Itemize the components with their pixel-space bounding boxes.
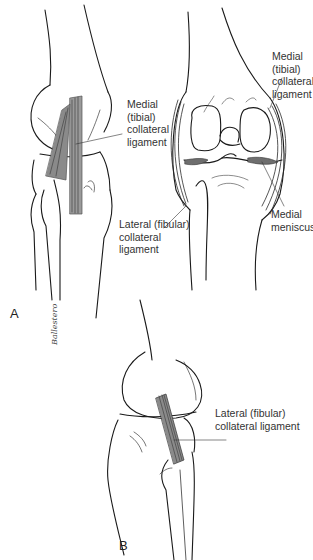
annotation-lateral-fibular-collateral-ligament-a: Lateral (fibular) collateral ligament xyxy=(119,218,190,256)
artist-signature: Ballestero xyxy=(50,304,59,345)
leader-lines xyxy=(76,78,284,440)
knee-lateral-view xyxy=(108,300,202,560)
annotation-medial-meniscus: Medial meniscus xyxy=(271,208,313,233)
panel-label-b: B xyxy=(119,538,128,553)
knee-illustration xyxy=(0,0,313,560)
annotation-medial-tibial-collateral-ligament-right: Medial (tibial) collateral ligament xyxy=(272,50,313,100)
mcl-ligament-medial-view xyxy=(46,96,82,214)
collateral-ligaments-anterior-view xyxy=(171,100,286,214)
annotation-medial-tibial-collateral-ligament-left: Medial (tibial) collateral ligament xyxy=(127,98,169,148)
panel-label-a: A xyxy=(10,306,19,321)
lcl-ligament-lateral-view xyxy=(156,394,184,464)
annotation-lateral-fibular-collateral-ligament-b: Lateral (fibular) collateral ligament xyxy=(215,407,300,432)
